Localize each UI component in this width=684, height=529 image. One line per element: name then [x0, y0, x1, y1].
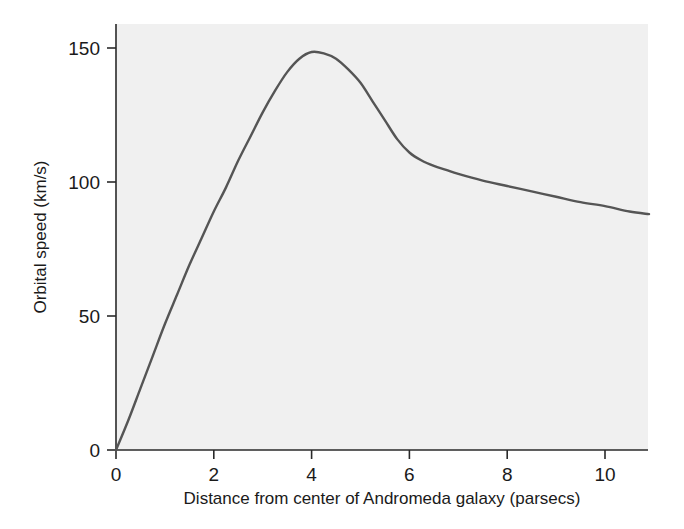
- y-axis-title: Orbital speed (km/s): [31, 160, 50, 313]
- plot-area-background: [116, 24, 648, 450]
- x-tick-label: 2: [209, 464, 220, 485]
- x-axis-ticks: 0246810: [111, 450, 616, 485]
- x-tick-label: 4: [306, 464, 317, 485]
- y-tick-label: 0: [89, 440, 100, 461]
- x-tick-label: 6: [404, 464, 415, 485]
- x-tick-label: 8: [502, 464, 513, 485]
- x-tick-label: 10: [594, 464, 615, 485]
- y-tick-label: 100: [68, 172, 100, 193]
- y-axis-ticks: 050100150: [68, 38, 116, 461]
- y-tick-label: 50: [79, 306, 100, 327]
- x-tick-label: 0: [111, 464, 122, 485]
- chart-canvas: 050100150 0246810 Distance from center o…: [0, 0, 684, 529]
- y-tick-label: 150: [68, 38, 100, 59]
- rotation-curve-figure: 050100150 0246810 Distance from center o…: [0, 0, 684, 529]
- x-axis-title: Distance from center of Andromeda galaxy…: [184, 489, 581, 508]
